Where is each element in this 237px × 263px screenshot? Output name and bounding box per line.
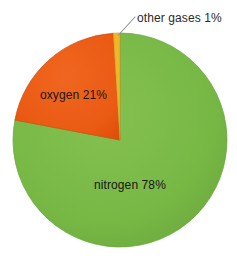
pie-chart-canvas: other gases 1% oxygen 21% nitrogen 78% bbox=[0, 0, 237, 263]
label-oxygen: oxygen 21% bbox=[40, 88, 107, 102]
pie-chart-figure: Composition of air other gases 1% oxygen… bbox=[0, 0, 237, 263]
label-other-gases: other gases 1% bbox=[137, 11, 222, 25]
callout-leader-line bbox=[119, 17, 136, 35]
label-nitrogen: nitrogen 78% bbox=[94, 178, 166, 192]
